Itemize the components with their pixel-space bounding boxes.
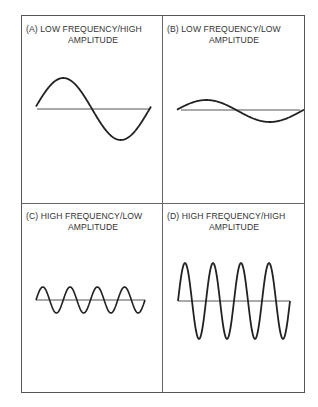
panel-c-graphic (36, 287, 145, 313)
waveform-layer (0, 0, 318, 407)
panel-d-graphic (178, 263, 290, 339)
panel-b-sine-wave (177, 100, 304, 122)
panel-a-graphic (36, 78, 151, 140)
panel-b-graphic (177, 100, 304, 122)
